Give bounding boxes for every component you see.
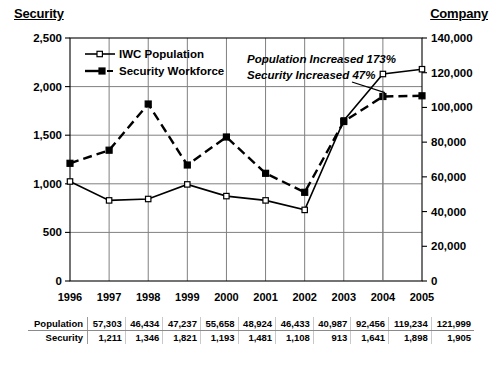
data-point-2-1996 [67,160,73,166]
x-axis-label-1997: 1997 [97,291,121,303]
table-cell-2002: 40,987 [313,317,351,331]
table-cell-2000: 48,924 [238,317,276,331]
x-axis-label-2001: 2001 [253,291,277,303]
left-tick-label: 2,000 [33,81,62,93]
table-cell-1999: 1,193 [200,331,238,345]
data-point-1-1999 [185,182,190,187]
legend-label-1: IWC Population [119,48,204,60]
data-point-2-1997 [106,147,112,153]
table-cell-1997: 46,434 [125,317,163,331]
table-cell-2005: 121,999 [431,317,474,331]
x-axis-label-1998: 1998 [136,291,160,303]
x-axis-label-2005: 2005 [410,291,434,303]
table-cell-2001: 1,108 [276,331,314,345]
data-point-2-1999 [184,162,190,168]
x-axis-label-2003: 2003 [332,291,356,303]
right-tick-label: 0 [431,275,437,287]
table-row: Security1,2111,3461,8211,1931,4811,10891… [28,331,474,345]
data-point-2-2002 [302,189,308,195]
legend-marker-1 [97,51,102,56]
table-cell-2004: 119,234 [388,317,431,331]
legend-marker-2 [99,68,105,74]
right-tick-label: 140,000 [431,32,473,44]
series-line-2 [70,96,422,193]
x-axis-label-2002: 2002 [292,291,316,303]
data-point-1-2000 [224,193,229,198]
data-point-1-2005 [419,67,424,72]
left-tick-label: 1,500 [33,129,62,141]
data-point-1-2001 [263,198,268,203]
left-tick-label: 500 [43,226,62,238]
table-cell-1999: 55,658 [200,317,238,331]
x-axis-label-2000: 2000 [214,291,238,303]
data-point-1-1996 [67,179,72,184]
data-point-1-1998 [146,196,151,201]
table-cell-2001: 46,433 [276,317,314,331]
chart-container: Security Company 05001,0001,5002,0002,50… [0,0,498,365]
left-tick-label: 2,500 [33,32,62,44]
table-cell-1998: 47,237 [163,317,201,331]
x-axis-label-1996: 1996 [58,291,82,303]
table-cell-1998: 1,821 [163,331,201,345]
right-tick-label: 120,000 [431,67,473,79]
table-cell-2005: 1,905 [431,331,474,345]
data-point-2-2005 [419,93,425,99]
table-cell-2004: 1,898 [388,331,431,345]
table-cell-2000: 1,481 [238,331,276,345]
table-row: Population57,30346,43447,23755,65848,924… [28,317,474,331]
x-axis-label-2004: 2004 [371,291,396,303]
line-chart-plot: 05001,0001,5002,0002,500020,00040,00060,… [0,0,498,312]
x-axis-label-1999: 1999 [175,291,199,303]
data-value-table: Population57,30346,43447,23755,65848,924… [28,317,474,344]
right-tick-label: 60,000 [431,171,466,183]
right-tick-label: 80,000 [431,136,466,148]
right-tick-label: 40,000 [431,206,466,218]
right-tick-label: 20,000 [431,240,466,252]
data-point-2-2003 [341,119,347,125]
table-cell-2003: 1,641 [351,331,389,345]
table-cell-2003: 92,456 [351,317,389,331]
data-point-2-1998 [145,101,151,107]
left-tick-label: 0 [56,275,62,287]
data-point-2-2000 [223,134,229,140]
table-row-label: Security [28,331,88,345]
table-cell-1997: 1,346 [125,331,163,345]
table-row-label: Population [28,317,88,331]
table-cell-2002: 913 [313,331,351,345]
data-point-1-2002 [302,207,307,212]
legend-label-2: Security Workforce [119,65,224,77]
annotation-1: Population Increased 173% [247,53,396,65]
right-tick-label: 100,000 [431,101,473,113]
left-tick-label: 1,000 [33,178,62,190]
data-point-1-1997 [106,198,111,203]
data-point-2-2001 [263,170,269,176]
annotation-2: Security Increased 47% [247,69,376,81]
table-cell-1996: 57,303 [88,317,126,331]
series-line-1 [70,69,422,210]
table-cell-1996: 1,211 [88,331,126,345]
data-point-1-2004 [380,71,385,76]
